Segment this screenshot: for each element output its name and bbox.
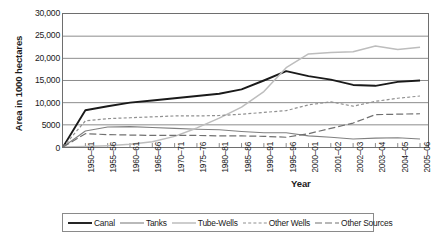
y-tick-label: 25,000	[18, 31, 60, 40]
y-tick-label: 30,000	[18, 9, 60, 18]
x-tick-label: 2004–05	[402, 142, 410, 204]
legend-item-other-wells[interactable]: Other Wells	[242, 214, 312, 231]
x-axis-tick-labels: 1950–511955–561960–611965–661970–711975–…	[0, 148, 435, 208]
x-tick-label: 1995–96	[290, 142, 298, 204]
chart-legend: CanalTanksTube-WellsOther WellsOther Sou…	[62, 213, 374, 232]
plot-svg	[63, 14, 428, 147]
legend-item-tanks[interactable]: Tanks	[119, 214, 169, 231]
x-tick-label: 1990–91	[267, 142, 275, 204]
legend-swatch-tanks-icon	[119, 219, 145, 227]
y-axis-tick-labels: 0500010,00015,00020,00025,00030,000	[16, 0, 60, 249]
legend-label: Tanks	[145, 218, 169, 228]
x-tick-label: 2000–01	[312, 142, 320, 204]
legend-item-tube-wells[interactable]: Tube-Wells	[171, 214, 240, 231]
x-tick-label: 1985–86	[245, 142, 253, 204]
x-tick-label: 1955–56	[110, 142, 118, 204]
x-tick-label: 2005–06	[424, 142, 432, 204]
line-chart: Area in 1000 hectares 0500010,00015,0002…	[0, 0, 435, 249]
x-tick-label: 2003–04	[379, 142, 387, 204]
x-tick-label: 2002–03	[357, 142, 365, 204]
legend-item-other-sources[interactable]: Other Sources	[314, 214, 394, 231]
legend-swatch-canal-icon	[67, 219, 93, 227]
legend-swatch-tube-wells-icon	[171, 219, 197, 227]
legend-label: Tube-Wells	[197, 218, 240, 228]
x-tick-label: 1960–61	[133, 142, 141, 204]
x-tick-label: 1975–76	[200, 142, 208, 204]
x-tick-label: 1970–71	[178, 142, 186, 204]
x-tick-label: 2001–02	[335, 142, 343, 204]
y-tick-label: 5000	[18, 121, 60, 130]
legend-item-canal[interactable]: Canal	[67, 214, 117, 231]
x-tick-label: 1980–81	[222, 142, 230, 204]
plot-area	[62, 13, 429, 148]
x-axis-title: Year	[291, 178, 311, 189]
y-tick-label: 15,000	[18, 76, 60, 85]
legend-swatch-other-wells-icon	[242, 219, 268, 227]
x-tick-label: 1965–66	[155, 142, 163, 204]
legend-swatch-other-sources-icon	[314, 219, 340, 227]
y-tick-label: 20,000	[18, 54, 60, 63]
legend-label: Canal	[93, 218, 117, 228]
legend-label: Other Wells	[268, 218, 312, 228]
legend-label: Other Sources	[340, 218, 394, 228]
y-tick-label: 10,000	[18, 99, 60, 108]
series-line-other-wells	[63, 96, 420, 147]
x-tick-label: 1950–51	[88, 142, 96, 204]
